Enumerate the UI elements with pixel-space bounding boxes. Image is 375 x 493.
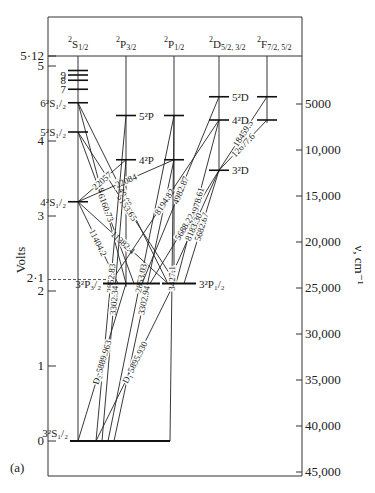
volts-axis-title: Volts [13,247,28,274]
transition-label: D₂ 5889.963 [91,338,114,385]
figure-label: (a) [10,460,24,475]
level-label-3d: 3²D [232,164,249,176]
wavenumber-tick-label: 10,000 [305,142,341,157]
wavenumber-tick-label: 40,000 [305,418,341,433]
grotrian-diagram: 2S1/22P3/22P1/22D5/2, 3/22F7/2, 5/2 0123… [0,0,375,493]
wavenumber-tick-label: 25,000 [305,280,341,295]
transition-label: D₁ 5895.930 [120,339,149,385]
volts-tick-label: 1 [38,358,45,373]
wavenumber-tick-label: 30,000 [305,326,341,341]
level-label-3p32: 3²P₃/₂ [75,278,101,290]
level-label-3s: 3²S₁/₂ [42,427,68,439]
level-label-5p32: 5²P [139,110,154,122]
volts-marker-label: 2·1 [27,270,44,285]
level-label-5s: 5²S₁/₂ [40,126,66,138]
column-header-f: 2F7/2, 5/2 [257,35,292,52]
level-label-4p32: 4²P [139,154,154,166]
transition-label: 11404.2 [87,227,109,257]
volts-tick-label: 3 [38,208,45,223]
level-label-5d: 5²D [232,91,249,103]
energy-levels: 3²S₁/₂4²S₁/₂5²S₁/₂6²S₁/₂7893²P₃/₂4²P5²P3… [40,69,277,441]
volts-tick-label: 2 [38,283,45,298]
level-label-3p12: 3²P₁/₂ [199,278,225,290]
transition-label: 3302.34 [108,285,120,315]
level-label-4s: 4²S₁/₂ [40,196,66,208]
wavenumber-tick-label: 35,000 [305,372,341,387]
wavenumber-axis-ticks: 500010,00015,00020,00025,00030,00035,000… [296,96,341,479]
wavenumber-tick-label: 5000 [305,96,331,111]
wavenumber-tick-label: 15,000 [305,188,341,203]
wavenumber-axis-title: ν, cm⁻¹ [352,245,367,284]
level-label-4d: 4²D [232,114,249,126]
wavenumber-tick-label: 20,000 [305,234,341,249]
column-header-p32: 2P3/2 [116,35,136,52]
column-header-d: 2D5/2, 3/2 [209,35,245,52]
wavenumber-tick-label: 45,000 [305,464,341,479]
level-label-6s: 6²S₁/₂ [40,97,66,109]
column-headers: 2S1/22P3/22P1/22D5/2, 3/22F7/2, 5/2 [68,35,292,52]
level-label-9s: 9 [61,69,67,81]
column-header-s: 2S1/2 [68,35,88,52]
volts-tick-label: 5·12 [20,48,44,63]
column-header-p12: 2P1/2 [164,35,184,52]
transitions: 5149.095149.095153.655153.655184.275184.… [78,97,267,441]
transition-label: 6160.73 [96,192,116,223]
transition-label: 3427.1 [167,266,177,291]
diagram-frame [48,17,302,476]
